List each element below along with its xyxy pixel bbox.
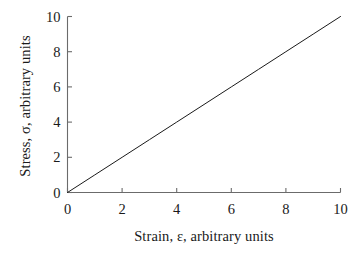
y-tick-label: 4 — [39, 115, 61, 130]
data-line-linear-elastic — [68, 17, 341, 193]
x-tick-label: 10 — [326, 202, 356, 217]
y-tick-label: 6 — [39, 80, 61, 95]
x-tick-label: 4 — [162, 202, 192, 217]
x-tick-label: 8 — [271, 202, 301, 217]
x-tick-label: 2 — [107, 202, 137, 217]
plot-area — [0, 0, 361, 261]
x-tick-label: 6 — [216, 202, 246, 217]
x-tick-label: 0 — [53, 202, 83, 217]
stress-strain-figure: Stress, σ, arbitrary units Strain, ε, ar… — [0, 0, 361, 261]
y-tick-label: 0 — [39, 186, 61, 201]
y-tick-label: 2 — [39, 150, 61, 165]
y-tick-label: 8 — [39, 45, 61, 60]
y-tick-label: 10 — [39, 10, 61, 25]
